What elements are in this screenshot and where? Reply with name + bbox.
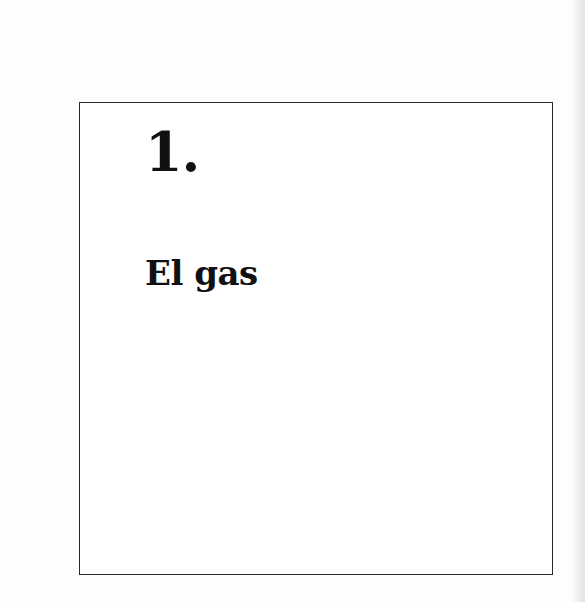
chapter-number: 1. [145, 125, 199, 179]
page-edge-shadow [571, 0, 585, 602]
chapter-title: El gas [145, 256, 258, 290]
chapter-frame: 1. El gas [79, 102, 553, 575]
